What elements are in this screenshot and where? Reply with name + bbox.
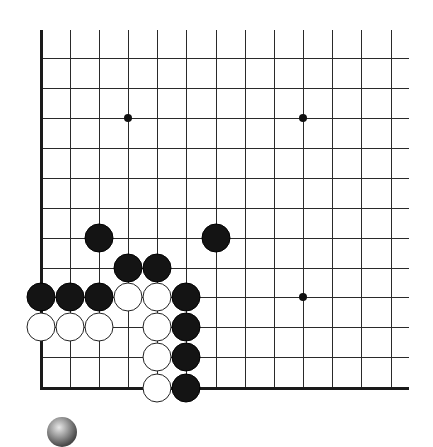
black-stone[interactable] xyxy=(143,254,172,283)
grid-line-vertical xyxy=(274,30,275,388)
grid-line-vertical xyxy=(303,30,304,388)
star-point xyxy=(299,114,307,122)
black-stone[interactable] xyxy=(172,343,201,372)
grid-line-horizontal xyxy=(41,268,409,269)
grid-line-horizontal xyxy=(41,208,409,209)
grid-line-vertical xyxy=(245,30,246,388)
black-stone[interactable] xyxy=(172,374,201,403)
white-stone[interactable] xyxy=(114,283,143,312)
board-edge-bottom xyxy=(40,387,409,390)
grid-line-horizontal xyxy=(41,357,409,358)
white-stone[interactable] xyxy=(143,313,172,342)
black-stone[interactable] xyxy=(27,283,56,312)
grid-line-horizontal xyxy=(41,118,409,119)
grid-line-horizontal xyxy=(41,58,409,59)
white-stone[interactable] xyxy=(143,283,172,312)
white-stone[interactable] xyxy=(27,313,56,342)
grid-line-horizontal xyxy=(41,178,409,179)
star-point xyxy=(124,114,132,122)
black-stone[interactable] xyxy=(85,224,114,253)
black-stone[interactable] xyxy=(114,254,143,283)
white-stone[interactable] xyxy=(85,313,114,342)
black-stone[interactable] xyxy=(172,313,201,342)
star-point xyxy=(299,293,307,301)
black-stone[interactable] xyxy=(172,283,201,312)
white-stone[interactable] xyxy=(56,313,85,342)
grid-line-horizontal xyxy=(41,148,409,149)
grid-line-vertical xyxy=(332,30,333,388)
grid-line-vertical xyxy=(216,30,217,388)
black-stone[interactable] xyxy=(202,224,231,253)
grid-line-vertical xyxy=(128,30,129,388)
black-stone[interactable] xyxy=(85,283,114,312)
grid-line-vertical xyxy=(361,30,362,388)
white-stone[interactable] xyxy=(143,343,172,372)
turn-indicator-stone-icon xyxy=(47,417,77,447)
black-stone[interactable] xyxy=(56,283,85,312)
grid-line-horizontal xyxy=(41,88,409,89)
white-stone[interactable] xyxy=(143,374,172,403)
grid-line-vertical xyxy=(391,30,392,388)
